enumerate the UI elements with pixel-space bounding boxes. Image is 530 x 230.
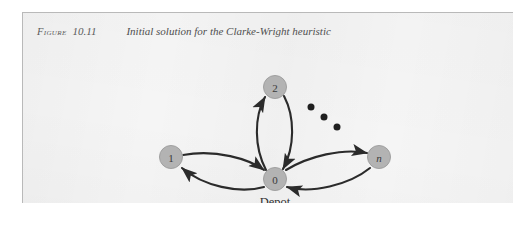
ellipsis-dots — [308, 104, 341, 131]
figure-caption: Figure 10.11 Initial solution for the Cl… — [37, 21, 331, 39]
edge-depot-to-2 — [257, 97, 266, 170]
edge-2-to-depot — [283, 96, 292, 169]
node-2[interactable]: 2 — [264, 76, 287, 99]
figure-root: Figure 10.11 Initial solution for the Cl… — [0, 0, 530, 230]
figure-caption-title: Initial solution for the Clarke-Wright h… — [126, 25, 330, 37]
edge-depot-to-n — [286, 152, 367, 170]
edge-1-to-depot — [183, 153, 264, 170]
node-n-label: n — [376, 152, 382, 164]
figure-caption-label: Figure — [37, 26, 67, 37]
node-2-label: 2 — [272, 82, 278, 94]
edge-n-to-depot — [287, 168, 370, 189]
edge-depot-to-1 — [182, 168, 264, 190]
node-depot-label: 0 — [272, 174, 278, 186]
node-depot[interactable]: 0 — [264, 168, 287, 191]
depot-caption: Depot — [260, 195, 291, 203]
node-1[interactable]: 1 — [160, 146, 183, 169]
routing-diagram: 2 1 n 0 Depot — [23, 39, 513, 203]
node-n[interactable]: n — [368, 146, 391, 169]
node-1-label: 1 — [168, 152, 174, 164]
figure-panel: Figure 10.11 Initial solution for the Cl… — [22, 12, 513, 203]
figure-caption-number: 10.11 — [73, 25, 97, 37]
